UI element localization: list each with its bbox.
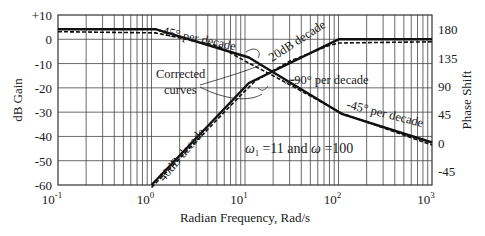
annotation-phase-90: -90° per decade: [290, 73, 369, 87]
y-tick-label: -20: [35, 81, 52, 96]
x-tick-label: 102: [324, 190, 342, 207]
y-axis-ticks: +100-10-20-30-40-50-60: [32, 8, 52, 193]
y-tick-label: -40: [35, 129, 52, 144]
y2-tick-label: 90: [438, 79, 451, 94]
y-tick-label: 0: [46, 32, 53, 47]
annotation-phase-45-2: -45° per decade: [345, 97, 425, 130]
annotation-phase-45-1: -45° per decade: [157, 23, 237, 53]
y2-tick-label: -45: [438, 164, 455, 179]
y2-tick-label: 180: [438, 22, 458, 37]
y-tick-label: -30: [35, 105, 52, 120]
svg-text:ω1 =11 and ω =100: ω1 =11 and ω =100: [245, 141, 353, 158]
annotation-curves: curves: [164, 83, 197, 97]
y-tick-label: -10: [35, 57, 52, 72]
y2-axis-label: Phase Shift: [459, 70, 474, 129]
x-axis-ticks: 10-1100101102103: [42, 190, 436, 207]
y2-axis-ticks: 18013590450-45: [438, 22, 458, 179]
y-tick-label: -60: [35, 178, 52, 193]
y2-tick-label: 135: [438, 51, 458, 66]
x-tick-label: 103: [417, 190, 435, 207]
y-tick-label: +10: [32, 8, 52, 23]
x-axis-label: Radian Frequency, Rad/s: [180, 210, 310, 225]
bode-plot: +100-10-20-30-40-50-60 18013590450-45 10…: [0, 0, 485, 236]
omega-annotation: ω1 =11 and ω =100: [245, 141, 353, 158]
y2-tick-label: 0: [438, 136, 445, 151]
annotation-corrected: Corrected: [156, 67, 206, 81]
y-tick-label: -50: [35, 154, 52, 169]
x-tick-label: 101: [230, 190, 248, 207]
y2-tick-label: 45: [438, 107, 451, 122]
annotation-gain-40db: 40dB decade: [156, 125, 209, 184]
y-axis-label: dB Gain: [10, 78, 25, 122]
annotation-gain-20db: 20dB decade: [266, 17, 328, 64]
x-tick-label: 100: [137, 190, 155, 207]
x-tick-label: 10-1: [42, 190, 63, 207]
